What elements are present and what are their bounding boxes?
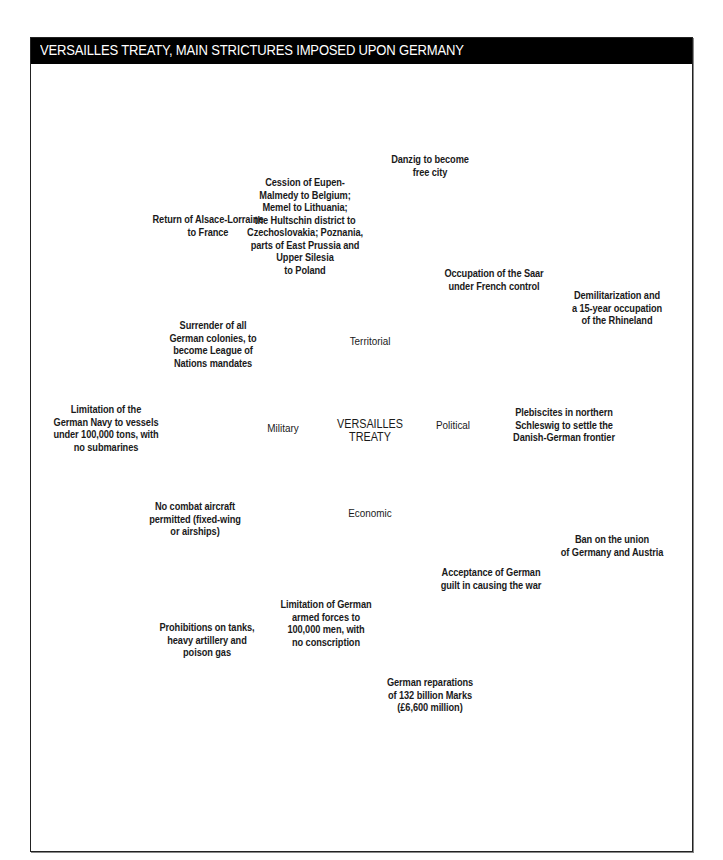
text-line: Schleswig to settle the — [513, 419, 615, 432]
bubble-text-rhineland: Demilitarization and a 15-year occupatio… — [572, 289, 662, 327]
text-line: of Germany and Austria — [561, 545, 663, 558]
text-line: or airships) — [149, 525, 241, 538]
text-line: Limitation of the — [53, 403, 158, 416]
text-line: of the Rhineland — [572, 314, 662, 327]
text-line: Plebiscites in northern — [513, 406, 615, 419]
text-line: 100,000 men, with — [280, 623, 371, 636]
text-line: become League of — [169, 344, 256, 357]
text-line: Nations mandates — [169, 357, 256, 370]
text-line: of 132 billion Marks — [387, 689, 473, 702]
text-line: No combat aircraft — [149, 500, 241, 513]
hub-label-political: Political — [436, 419, 470, 432]
text-line: poison gas — [159, 646, 254, 659]
text-line: no submarines — [53, 441, 158, 454]
bubble-text-saar: Occupation of the Saar under French cont… — [444, 267, 543, 292]
hub-label-economic: Economic — [348, 507, 391, 520]
text-line: Ban on the union — [561, 533, 663, 546]
text-line: parts of East Prussia and — [247, 239, 363, 252]
bubble-text-navy: Limitation of the German Navy to vessels… — [53, 403, 158, 453]
bubble-text-tanks: Prohibitions on tanks, heavy artillery a… — [159, 621, 254, 659]
text-line: Surrender of all — [169, 319, 256, 332]
bubble-text-reparations: German reparations of 132 billion Marks … — [387, 676, 473, 714]
text-line: Demilitarization and — [572, 289, 662, 302]
text-line: Acceptance of German — [441, 566, 542, 579]
text-line: German colonies, to — [169, 332, 256, 345]
text-line: permitted (fixed-wing — [149, 513, 241, 526]
bubble-text-cession: Cession of Eupen- Malmedy to Belgium; Me… — [247, 176, 363, 276]
text-line: the Hultschin district to — [247, 214, 363, 227]
text-line: Limitation of German — [280, 598, 371, 611]
text-line: under French control — [444, 279, 543, 292]
text-line: German Navy to vessels — [53, 416, 158, 429]
hub-label-territorial: Territorial — [350, 335, 391, 348]
bubble-text-colonies: Surrender of all German colonies, to bec… — [169, 319, 256, 369]
text-line: (£6,600 million) — [387, 701, 473, 714]
bubble-text-ban-union: Ban on the union of Germany and Austria — [561, 533, 663, 558]
center-label-line2: TREATY — [337, 431, 403, 444]
text-line: guilt in causing the war — [441, 578, 542, 591]
bubble-text-aircraft: No combat aircraft permitted (fixed-wing… — [149, 500, 241, 538]
text-line: German reparations — [387, 676, 473, 689]
text-line: Danish-German frontier — [513, 431, 615, 444]
bubble-text-acceptance: Acceptance of German guilt in causing th… — [441, 566, 542, 591]
text-line: Occupation of the Saar — [444, 267, 543, 280]
text-line: armed forces to — [280, 611, 371, 624]
text-line: free city — [391, 165, 469, 178]
text-line: Czechoslovakia; Poznania, — [247, 226, 363, 239]
text-line: Cession of Eupen- — [247, 176, 363, 189]
center-label: VERSAILLES TREATY — [337, 418, 403, 444]
text-line: to Poland — [247, 264, 363, 277]
text-line: under 100,000 tons, with — [53, 428, 158, 441]
bubble-text-danzig: Danzig to become free city — [391, 153, 469, 178]
text-line: Danzig to become — [391, 153, 469, 166]
text-line: Memel to Lithuania; — [247, 201, 363, 214]
text-line: a 15-year occupation — [572, 302, 662, 315]
text-line: Malmedy to Belgium; — [247, 189, 363, 202]
bubble-text-plebiscites: Plebiscites in northern Schleswig to set… — [513, 406, 615, 444]
text-line: Upper Silesia — [247, 251, 363, 264]
bubble-text-armed-forces: Limitation of German armed forces to 100… — [280, 598, 371, 648]
hub-label-military: Military — [267, 422, 298, 435]
bubble-tanks — [145, 600, 265, 720]
text-line: no conscription — [280, 636, 371, 649]
text-line: heavy artillery and — [159, 634, 254, 647]
text-line: Prohibitions on tanks, — [159, 621, 254, 634]
